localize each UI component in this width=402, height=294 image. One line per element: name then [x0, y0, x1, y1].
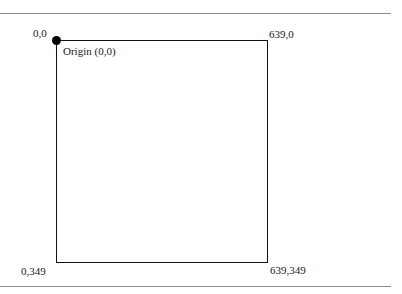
bottom-right-coordinate: 639,349 — [270, 264, 306, 276]
top-right-coordinate: 639,0 — [269, 28, 294, 40]
screen-rectangle — [56, 40, 268, 263]
top-rule — [0, 13, 391, 14]
top-left-coordinate: 0,0 — [33, 27, 47, 39]
bottom-rule — [0, 286, 391, 287]
origin-dot-icon — [52, 36, 61, 45]
bottom-left-coordinate: 0,349 — [21, 265, 46, 277]
origin-label: Origin (0,0) — [63, 45, 116, 57]
